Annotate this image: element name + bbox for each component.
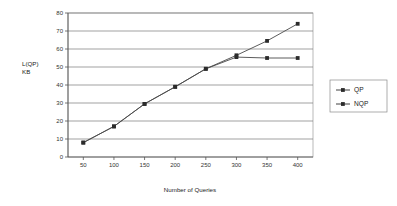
legend-label-qp: QP bbox=[354, 86, 364, 94]
y-axis-title-line1: L(QP) bbox=[22, 60, 39, 67]
legend: QPNQP bbox=[330, 80, 387, 112]
y-tick-label: 20 bbox=[56, 118, 63, 124]
data-point-marker bbox=[296, 22, 300, 26]
x-tick-label: 150 bbox=[140, 162, 151, 168]
x-axis-title: Number of Queries bbox=[164, 186, 216, 193]
legend-label-nqp: NQP bbox=[354, 100, 369, 108]
legend-marker-qp bbox=[341, 88, 345, 92]
legend-marker-nqp bbox=[341, 102, 345, 106]
x-tick-label: 100 bbox=[109, 162, 120, 168]
y-tick-label: 50 bbox=[56, 64, 63, 70]
data-point-marker bbox=[112, 125, 116, 129]
x-tick-label: 200 bbox=[170, 162, 181, 168]
line-chart: 01020304050607080 5010015020025030035040… bbox=[0, 0, 397, 206]
data-point-marker bbox=[143, 102, 147, 106]
y-tick-label: 40 bbox=[56, 82, 63, 88]
x-tick-label: 350 bbox=[262, 162, 273, 168]
x-tick-label: 50 bbox=[80, 162, 87, 168]
data-point-marker bbox=[235, 53, 239, 57]
y-axis-ticks: 01020304050607080 bbox=[56, 10, 68, 160]
y-tick-label: 60 bbox=[56, 46, 63, 52]
data-point-marker bbox=[204, 67, 208, 71]
chart-container: 01020304050607080 5010015020025030035040… bbox=[0, 0, 397, 206]
data-point-marker bbox=[81, 141, 85, 145]
x-tick-label: 250 bbox=[201, 162, 212, 168]
y-tick-label: 70 bbox=[56, 28, 63, 34]
y-tick-label: 0 bbox=[60, 154, 64, 160]
y-tick-label: 80 bbox=[56, 10, 63, 16]
y-tick-label: 30 bbox=[56, 100, 63, 106]
data-point-marker bbox=[173, 85, 177, 89]
x-tick-label: 400 bbox=[293, 162, 304, 168]
data-point-marker bbox=[296, 56, 300, 60]
x-axis-ticks: 50100150200250300350400 bbox=[80, 157, 303, 168]
data-point-marker bbox=[265, 39, 269, 43]
data-point-marker bbox=[265, 56, 269, 60]
y-axis-title-line2: KB bbox=[22, 68, 30, 75]
x-tick-label: 300 bbox=[231, 162, 242, 168]
y-tick-label: 10 bbox=[56, 136, 63, 142]
